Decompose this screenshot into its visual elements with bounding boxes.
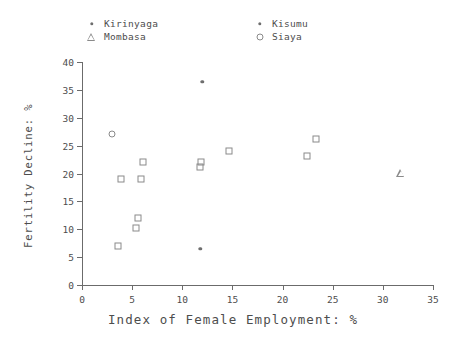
y-axis-tick [77, 146, 82, 147]
data-point [118, 176, 125, 183]
data-point [109, 131, 116, 138]
scatter-plot-figure: KirinyagaMombasaKisumuSiaya Index of Fem… [0, 0, 466, 344]
dot-marker-icon [90, 22, 93, 25]
x-axis-title: Index of Female Employment: % [0, 312, 466, 327]
legend-item-label: Siaya [272, 31, 302, 42]
y-axis-tick [77, 118, 82, 119]
y-axis-tick-label: 25 [48, 140, 74, 151]
x-axis-tick-label: 30 [377, 294, 388, 305]
y-axis-tick-label: 10 [48, 224, 74, 235]
x-axis-line [82, 285, 433, 286]
y-axis-tick [77, 257, 82, 258]
legend-item-label: Mombasa [104, 31, 146, 42]
x-axis-tick [232, 285, 233, 290]
dot-marker-icon [254, 18, 265, 29]
triangle-marker-icon [88, 33, 96, 41]
y-axis-tick [77, 201, 82, 202]
y-axis-tick-label: 35 [48, 84, 74, 95]
dot-marker-icon [86, 18, 97, 29]
x-axis-tick-label: 5 [129, 294, 135, 305]
y-axis-tick [77, 90, 82, 91]
data-point [115, 242, 122, 249]
data-point [199, 247, 202, 250]
y-axis-tick [77, 62, 82, 63]
x-axis-tick [182, 285, 183, 290]
x-axis-tick [283, 285, 284, 290]
x-axis-tick [333, 285, 334, 290]
x-axis-tick-label: 35 [427, 294, 438, 305]
x-axis-tick [433, 285, 434, 290]
legend-item-kisumu[interactable]: Kisumu [254, 18, 308, 29]
y-axis-tick [77, 229, 82, 230]
data-point [135, 214, 142, 221]
dot-marker-icon [258, 22, 261, 25]
y-axis-tick-label: 5 [48, 252, 74, 263]
legend-item-siaya[interactable]: Siaya [254, 31, 302, 42]
x-axis-tick [383, 285, 384, 290]
y-axis-tick-label: 20 [48, 168, 74, 179]
data-point [312, 136, 319, 143]
circle-marker-icon [256, 33, 263, 40]
x-axis-tick-label: 10 [177, 294, 188, 305]
y-axis-tick-label: 40 [48, 57, 74, 68]
data-point [397, 169, 405, 177]
data-point [198, 158, 205, 165]
chart-legend: KirinyagaMombasaKisumuSiaya [0, 0, 466, 46]
data-point [133, 225, 140, 232]
x-axis-tick-label: 15 [227, 294, 238, 305]
y-axis-tick-label: 30 [48, 112, 74, 123]
data-point [140, 159, 147, 166]
y-axis-tick-label: 0 [48, 280, 74, 291]
x-axis-tick-label: 20 [277, 294, 288, 305]
x-axis-tick [82, 285, 83, 290]
y-axis-tick-label: 15 [48, 196, 74, 207]
data-point [226, 148, 233, 155]
y-axis-tick [77, 174, 82, 175]
x-axis-tick-label: 25 [327, 294, 338, 305]
legend-item-mombasa[interactable]: Mombasa [86, 31, 146, 42]
legend-item-label: Kirinyaga [104, 18, 158, 29]
data-point [201, 80, 204, 83]
y-axis-title: Fertility Decline: % [22, 104, 34, 248]
data-point [138, 175, 145, 182]
y-axis-tick [77, 285, 82, 286]
x-axis-tick-label: 0 [79, 294, 85, 305]
data-point [303, 153, 310, 160]
triangle-marker-icon [86, 31, 97, 42]
x-axis-tick [132, 285, 133, 290]
y-axis-line [82, 62, 83, 285]
legend-item-kirinyaga[interactable]: Kirinyaga [86, 18, 158, 29]
legend-item-label: Kisumu [272, 18, 308, 29]
circle-marker-icon [254, 31, 265, 42]
